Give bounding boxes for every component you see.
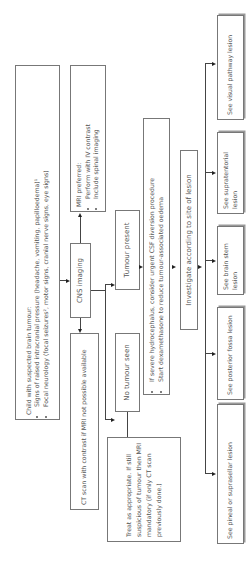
arrow-icon [212,352,216,356]
mri-bullet: Perform with IV contrast [84,70,92,199]
tumour-present-box: Tumour present [115,210,140,290]
lesion-label: See posterior fossa lesion [226,312,234,395]
no-tumour-label: No tumour seen [123,344,131,400]
treat-box: Treat as appropriate. If still suspiciou… [107,437,181,542]
ct-scan-box: CT scan with contrast if MRI not possibl… [70,333,99,510]
presentation-title: Child with suspected brain tumour: [25,70,33,415]
mri-bullet: Include spinal imaging [92,70,100,199]
lesion-label: See visual pathway lesion [226,20,234,115]
lesion-visual-pathway-box: See visual pathway lesion [217,15,244,120]
connector [105,285,106,291]
tumour-present-label: Tumour present [123,223,131,278]
management-bullet: Start dexamethasone to reduce tumour-ass… [157,123,165,382]
arrow-icon [212,259,216,263]
management-bullet: If severe hydrocephalus, consider urgent… [148,123,156,382]
lesion-pineal-box: See pineal or suprasellar lesion [217,404,244,544]
presentation-bullet: Signs of raised intracranial pressure (h… [33,70,41,407]
flowchart-canvas: Child with suspected brain tumour: Signs… [0,0,247,569]
arrow-icon [212,472,216,476]
mri-title: MRI preferred: [75,70,83,207]
lesion-label: See pineal or suprasellar lesion [226,409,234,539]
cns-imaging-box: CNS imaging [70,243,91,318]
arrow-icon [212,171,216,175]
lesion-label: See brain stem lesion [222,231,239,290]
connector [105,290,106,420]
mri-preferred-box: MRI preferred: Perform with IV contrast … [70,65,106,212]
lesion-supratentorial-box: See supratentorial lesion [217,132,244,214]
lesion-label: See supratentorial lesion [222,137,239,209]
lesion-brain-stem-box: See brain stem lesion [217,226,244,295]
ct-scan-label: CT scan with contrast if MRI not possibl… [80,338,88,505]
treat-label: Treat as appropriate. If still suspiciou… [124,442,164,537]
investigate-label: Investigate according to site of lesion [185,174,193,305]
arrow-icon [198,265,202,269]
connector [91,290,105,291]
cns-imaging-label: CNS imaging [76,258,84,303]
connector [205,64,206,474]
arrow-icon [212,62,216,66]
connector [80,216,81,243]
management-box: If severe hydrocephalus, consider urgent… [143,118,170,395]
presentation-box: Child with suspected brain tumour: Signs… [15,65,60,420]
connector [80,318,81,329]
arrow-icon [172,265,176,269]
arrow-icon [111,418,115,422]
presentation-bullet: Focal neurology (focal seizures², motor … [42,70,50,407]
lesion-posterior-fossa-box: See posterior fossa lesion [217,307,244,400]
no-tumour-box: No tumour seen [115,333,140,412]
investigate-box: Investigate according to site of lesion [180,150,198,330]
arrow-icon [78,213,82,217]
